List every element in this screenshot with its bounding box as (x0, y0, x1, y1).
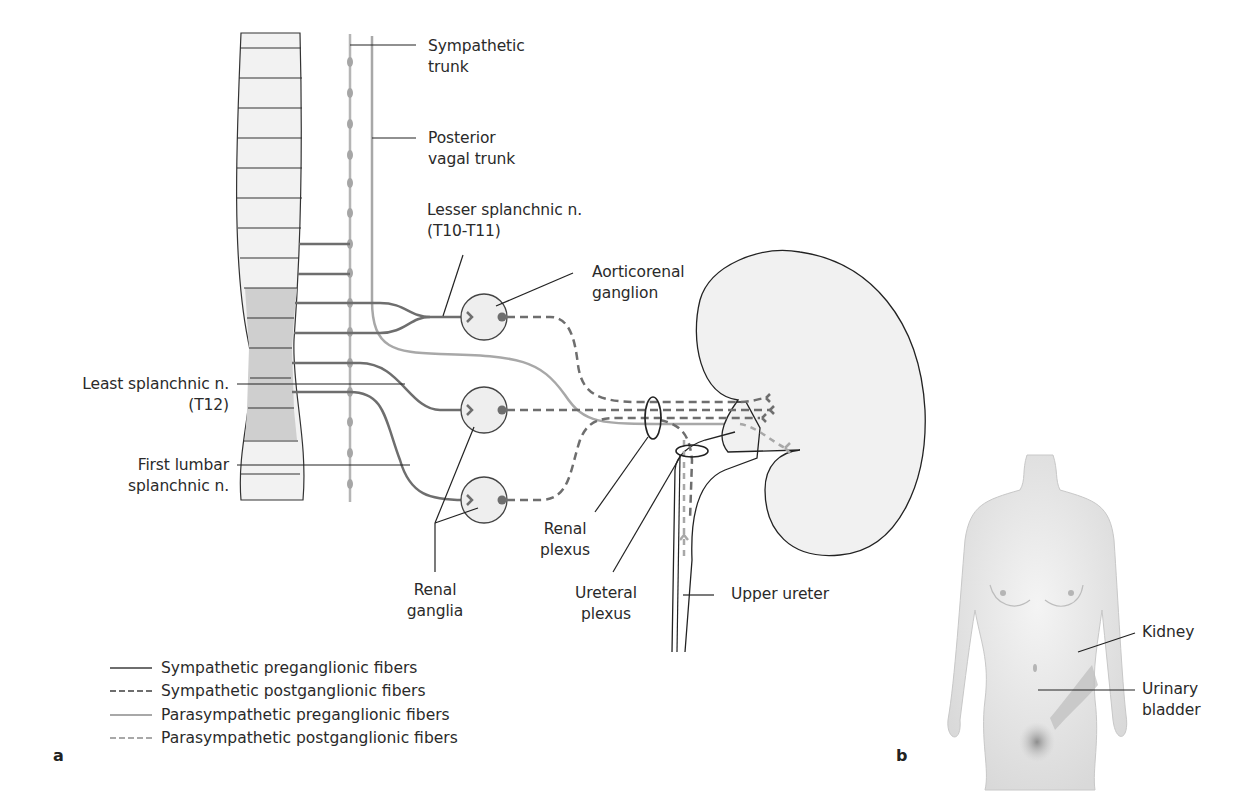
label-least-splanchnic: Least splanchnic n. (T12) (82, 374, 229, 416)
label-kidney: Kidney (1142, 622, 1194, 643)
panel-label-a: a (53, 746, 64, 765)
legend-item-parasympathetic-post: Parasympathetic postganglionic fibers (110, 727, 458, 751)
label-renal-plexus: Renal plexus (530, 519, 600, 561)
label-urinary-bladder: Urinary bladder (1142, 679, 1201, 721)
panel-label-b: b (896, 746, 907, 765)
legend-item-parasympathetic-pre: Parasympathetic preganglionic fibers (110, 703, 458, 727)
renal-ganglion-lower (461, 477, 507, 523)
legend-item-sympathetic-pre: Sympathetic preganglionic fibers (110, 656, 458, 680)
label-first-lumbar-splanchnic: First lumbar splanchnic n. (128, 455, 229, 497)
aorticorenal-ganglion (461, 294, 507, 340)
spinal-cord (237, 33, 304, 500)
ureteral-plexus-marker (676, 445, 708, 457)
sympathetic-trunk (347, 34, 353, 502)
dashed-line-icon (110, 690, 152, 692)
label-upper-ureter: Upper ureter (731, 584, 829, 605)
legend: Sympathetic preganglionic fibers Sympath… (110, 656, 458, 750)
label-aorticorenal-ganglion: Aorticorenal ganglion (592, 262, 685, 304)
body-illustration (948, 455, 1127, 790)
solid-line-icon (110, 667, 152, 669)
sympathetic-preganglionic-fibers (292, 244, 464, 500)
label-ureteral-plexus: Ureteral plexus (565, 583, 647, 625)
label-posterior-vagal-trunk: Posterior vagal trunk (428, 128, 515, 170)
solid-line-icon (110, 714, 152, 716)
dashed-line-icon (110, 737, 152, 739)
renal-ganglion-upper (461, 387, 507, 433)
legend-item-sympathetic-post: Sympathetic postganglionic fibers (110, 680, 458, 704)
label-renal-ganglia: Renal ganglia (400, 580, 470, 622)
label-sympathetic-trunk: Sympathetic trunk (428, 36, 525, 78)
label-lesser-splanchnic: Lesser splanchnic n. (T10-T11) (427, 200, 582, 242)
